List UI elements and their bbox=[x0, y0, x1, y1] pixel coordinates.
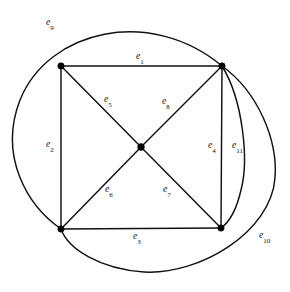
edge-label-e6: e6 bbox=[105, 185, 113, 195]
edge-e3-line bbox=[61, 228, 221, 229]
edge-label-e4-sub: 4 bbox=[212, 147, 216, 155]
edge-e4-line bbox=[221, 66, 222, 228]
vertex-bottom-right bbox=[218, 225, 224, 231]
edge-label-e10: e10 bbox=[259, 231, 270, 241]
edge-label-e1-sub: 1 bbox=[140, 58, 144, 66]
vertex-center bbox=[138, 144, 145, 151]
edge-label-e2-sub: 2 bbox=[50, 146, 54, 154]
edge-label-e3-sub: 3 bbox=[137, 238, 141, 246]
edge-e6-line bbox=[61, 147, 141, 229]
vertex-top-right bbox=[219, 63, 225, 69]
graph-canvas bbox=[0, 0, 290, 292]
edge-label-e4: e4 bbox=[208, 141, 216, 151]
graph-figure: e1 e2 e3 e4 e5 e6 e7 e8 e9 e10 e11 bbox=[0, 0, 290, 292]
edge-e9-arc bbox=[12, 32, 222, 229]
edge-label-e8-sub: 8 bbox=[166, 103, 170, 111]
edge-label-e9-sub: 9 bbox=[50, 24, 54, 32]
edge-label-e3: e3 bbox=[133, 232, 141, 242]
edge-label-e2: e2 bbox=[46, 140, 54, 150]
vertex-bottom-left bbox=[58, 226, 64, 232]
edge-label-e5: e5 bbox=[104, 95, 112, 105]
edge-label-e9: e9 bbox=[46, 18, 54, 28]
edge-label-e11-sub: 11 bbox=[236, 147, 243, 155]
edge-e7-line bbox=[141, 147, 221, 228]
edge-label-e1: e1 bbox=[136, 52, 144, 62]
edge-label-e11: e11 bbox=[232, 141, 243, 151]
edge-label-e8: e8 bbox=[162, 97, 170, 107]
edge-e8-line bbox=[141, 66, 222, 147]
vertex-top-left bbox=[58, 63, 64, 69]
edge-label-e7-sub: 7 bbox=[167, 191, 171, 199]
edge-label-e6-sub: 6 bbox=[109, 191, 113, 199]
edge-label-e10-sub: 10 bbox=[263, 237, 270, 245]
edge-e5-line bbox=[61, 66, 141, 147]
edge-label-e7: e7 bbox=[163, 185, 171, 195]
edge-label-e5-sub: 5 bbox=[108, 101, 112, 109]
